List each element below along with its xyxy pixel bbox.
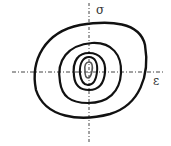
hysteresis-loops: [35, 23, 147, 118]
sigma-axis-label: σ: [96, 3, 104, 17]
stress-strain-diagram: σ ε: [0, 0, 171, 146]
epsilon-axis-label: ε: [153, 74, 159, 88]
